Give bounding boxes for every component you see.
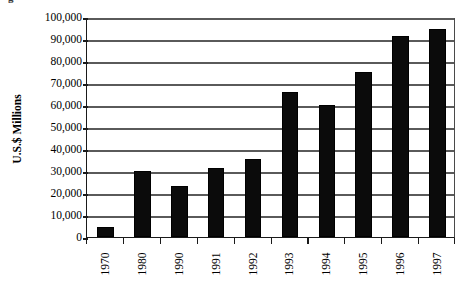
y-axis-tick-mark	[83, 84, 88, 85]
y-axis-tick-label: 80,000	[26, 56, 82, 68]
bar	[208, 168, 225, 237]
x-axis-tick-labels: 1970198019901991199219931994199519961997	[86, 244, 455, 286]
bar	[171, 186, 188, 237]
bar	[319, 105, 336, 237]
cropped-caption-fragment: g	[8, 0, 24, 5]
x-axis-tick-label: 1997	[417, 244, 457, 284]
x-axis-tick-label: 1980	[121, 244, 161, 284]
x-axis-tick-label-text: 1990	[172, 253, 184, 276]
y-axis-tick-label: 0	[26, 232, 82, 244]
plot-inner	[87, 19, 454, 237]
bar	[355, 72, 372, 237]
y-axis-tick-label: 70,000	[26, 78, 82, 90]
x-axis-tick-label: 1993	[269, 244, 309, 284]
bar	[392, 36, 409, 237]
x-axis-tick-label-text: 1970	[98, 253, 110, 276]
y-axis-tick-label: 20,000	[26, 188, 82, 200]
bar	[282, 92, 299, 237]
y-axis-tick-mark	[83, 172, 88, 173]
x-axis-tick-label: 1994	[306, 244, 346, 284]
y-axis-title-text: U.S.$ Millions	[11, 94, 23, 163]
bar	[429, 29, 446, 237]
y-axis-tick-label: 60,000	[26, 100, 82, 112]
x-axis-tick-label: 1996	[380, 244, 420, 284]
gridline	[87, 18, 454, 19]
y-axis-tick-label: 40,000	[26, 144, 82, 156]
x-axis-tick-label-text: 1991	[209, 253, 221, 276]
x-axis-tick-label: 1992	[232, 244, 272, 284]
x-axis-tick-label: 1970	[84, 244, 124, 284]
y-axis-tick-mark	[83, 128, 88, 129]
y-axis-tick-label: 50,000	[26, 122, 82, 134]
y-axis-tick-mark	[83, 216, 88, 217]
x-axis-tick-label: 1990	[158, 244, 198, 284]
y-axis-title: U.S.$ Millions	[8, 70, 26, 188]
y-axis-tick-label: 90,000	[26, 34, 82, 46]
y-axis-tick-mark	[83, 106, 88, 107]
x-axis-tick-label-text: 1995	[357, 253, 369, 276]
x-axis-tick-label-text: 1997	[431, 253, 443, 276]
x-axis-tick-label-text: 1994	[320, 253, 332, 276]
x-axis-tick-label-text: 1992	[246, 253, 258, 276]
y-axis-tick-label: 30,000	[26, 166, 82, 178]
plot-area	[86, 18, 455, 238]
y-axis-tick-mark	[83, 62, 88, 63]
x-axis-tick-label-text: 1993	[283, 253, 295, 276]
x-axis-tick-label: 1995	[343, 244, 383, 284]
bar	[245, 159, 262, 237]
bar	[97, 227, 114, 237]
y-axis-tick-mark	[83, 194, 88, 195]
x-axis-tick-label-text: 1980	[135, 253, 147, 276]
x-axis-tick-label-text: 1996	[394, 253, 406, 276]
chart-figure: g U.S.$ Millions 010,00020,00030,00040,0…	[0, 0, 466, 286]
y-axis-tick-mark	[83, 40, 88, 41]
y-axis-tick-label: 100,000	[26, 12, 82, 24]
x-axis-tick-label: 1991	[195, 244, 235, 284]
y-axis-tick-labels: 010,00020,00030,00040,00050,00060,00070,…	[26, 0, 82, 286]
y-axis-tick-label: 10,000	[26, 210, 82, 222]
bar	[134, 171, 151, 237]
y-axis-tick-mark	[83, 18, 88, 19]
y-axis-tick-mark	[83, 150, 88, 151]
